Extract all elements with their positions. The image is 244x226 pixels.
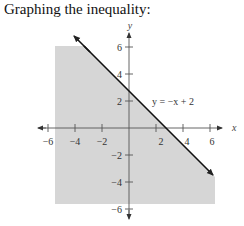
y-axis-label: y (127, 20, 133, 31)
y-tick-label: −2 (111, 150, 122, 161)
x-tick-label: 4 (185, 136, 190, 147)
shaded-region (55, 46, 215, 204)
equation-label: y = −x + 2 (152, 96, 194, 107)
x-axis-label: x (231, 122, 237, 133)
x-tick-label: −6 (43, 136, 54, 147)
y-tick-label: 6 (117, 42, 122, 53)
inequality-graph: −6 −4 −2 2 4 6 6 4 2 −2 −4 −6 x y y = −x… (0, 0, 244, 226)
x-tick-label: −4 (70, 136, 81, 147)
x-tick-label: 2 (159, 136, 164, 147)
y-tick-label: 4 (117, 69, 122, 80)
x-tick-label: −2 (97, 136, 108, 147)
y-tick-label: 2 (117, 96, 122, 107)
x-tick-label: 6 (210, 136, 215, 147)
y-tick-label: −6 (111, 204, 122, 215)
y-tick-label: −4 (111, 177, 122, 188)
